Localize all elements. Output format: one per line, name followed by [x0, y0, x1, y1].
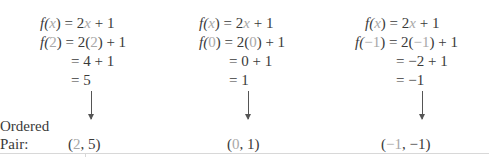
ordered-label-line1: Ordered: [0, 118, 49, 135]
equation-substitution: f(2) = 2(2) + 1: [40, 34, 126, 51]
divider-tick: [85, 153, 86, 157]
down-arrow-icon: [91, 91, 92, 119]
equation-substitution: f(0) = 2(0) + 1: [199, 34, 285, 51]
equation-step: = −2 + 1: [396, 53, 448, 70]
divider-rule: [0, 153, 489, 154]
equation-result: = 1: [229, 72, 249, 89]
equation-definition: f(x) = 2x + 1: [199, 15, 273, 32]
ordered-pair: (−1, −1): [381, 136, 430, 153]
equation-substitution: f(−1) = 2(−1) + 1: [355, 34, 458, 51]
ordered-pair: (0, 1): [227, 136, 260, 153]
equation-result: = 5: [71, 72, 91, 89]
equation-step: = 0 + 1: [229, 53, 272, 70]
equation-definition: f(x) = 2x + 1: [365, 15, 439, 32]
equation-definition: f(x) = 2x + 1: [40, 15, 114, 32]
down-arrow-icon: [248, 91, 249, 119]
ordered-label-line2: Pair:: [0, 136, 28, 153]
equation-step: = 4 + 1: [71, 53, 114, 70]
equation-result: = −1: [396, 72, 424, 89]
down-arrow-icon: [422, 91, 423, 119]
ordered-pair: (2, 5): [68, 136, 101, 153]
